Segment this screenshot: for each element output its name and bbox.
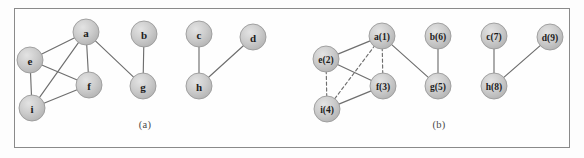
figure-border (14, 8, 570, 148)
panel-b-caption: (b) (433, 119, 446, 130)
figure-root: abcdefghia(1)e(2)f(3)i(4)g(5)b(6)c(7)h(8… (0, 0, 584, 158)
panel-a-caption: (a) (139, 119, 151, 130)
